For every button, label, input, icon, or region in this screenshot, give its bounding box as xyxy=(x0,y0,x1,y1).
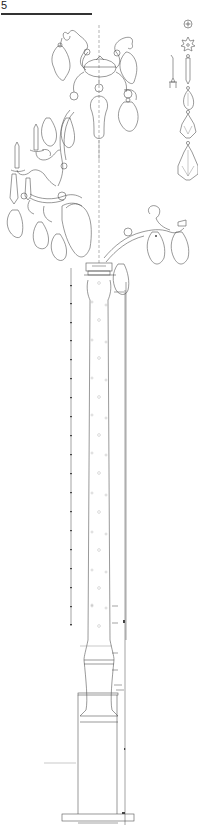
ornament-details xyxy=(169,20,198,180)
technical-drawing xyxy=(0,0,198,825)
column-shaft xyxy=(80,280,118,722)
left-dimension-chain xyxy=(70,268,72,626)
pedestal xyxy=(44,693,134,823)
right-dimension-lines xyxy=(112,282,126,825)
column-top-fitting xyxy=(84,263,116,275)
left-candle-arms xyxy=(10,110,82,204)
shaft-bead-pattern xyxy=(91,282,107,628)
prism-drop xyxy=(118,102,138,131)
upper-crown xyxy=(52,30,137,100)
right-lower-arm xyxy=(104,206,189,295)
left-lower-drops xyxy=(7,200,66,261)
